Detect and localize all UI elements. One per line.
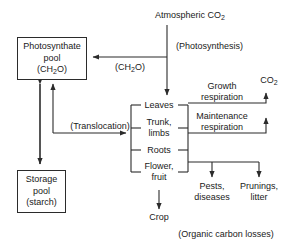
- node-trunk-limbs: Trunk,limbs: [146, 117, 171, 139]
- node-pests-diseases: Pests,diseases: [194, 181, 230, 203]
- storage-line-1: Storage: [26, 174, 58, 186]
- annotation-translocation: (Translocation): [70, 121, 130, 132]
- node-co2-output: CO2: [260, 75, 277, 86]
- node-prunings-litter: Prunings,litter: [240, 181, 278, 203]
- storage-line-3: (starch): [26, 197, 57, 209]
- node-storage-pool: Storage pool (starch): [17, 170, 66, 213]
- node-crop: Crop: [149, 212, 169, 223]
- node-photosynthate-pool: Photosynthate pool (CH2O): [17, 37, 87, 80]
- carbon-flow-diagram: Atmospheric CO2 (Photosynthesis) Photosy…: [0, 0, 296, 249]
- annotation-ch2o: (CH2O): [115, 62, 145, 73]
- label-atmospheric-co2: Atmospheric CO2: [155, 10, 225, 21]
- photosynthate-line-1: Photosynthate: [23, 41, 81, 53]
- annotation-organic-carbon-losses: (Organic carbon losses): [178, 229, 274, 240]
- node-roots: Roots: [147, 145, 171, 156]
- node-maintenance-respiration: Maintenancerespiration: [196, 111, 248, 133]
- storage-line-2: pool: [33, 186, 50, 198]
- node-growth-respiration: Growthrespiration: [201, 81, 243, 103]
- annotation-photosynthesis: (Photosynthesis): [176, 41, 243, 52]
- photosynthate-line-2: pool: [43, 53, 60, 65]
- node-flower-fruit: Flower,fruit: [144, 161, 173, 183]
- node-leaves: Leaves: [144, 100, 173, 111]
- photosynthate-line-3: (CH2O): [37, 64, 67, 76]
